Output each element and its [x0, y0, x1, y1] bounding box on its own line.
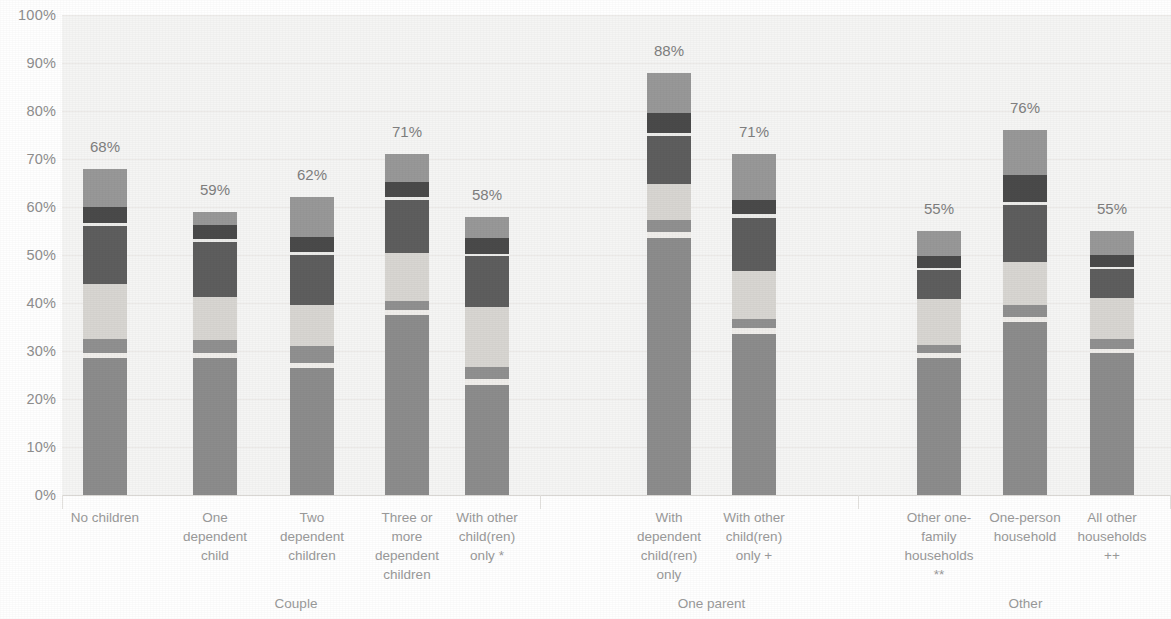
bar-segment: [193, 225, 237, 238]
bar-segment: [193, 242, 237, 297]
category-label-line: ++: [1062, 546, 1162, 565]
bar-value-label: 88%: [624, 43, 714, 58]
category-label-line: only *: [439, 546, 535, 565]
bar-stack[interactable]: [290, 197, 334, 495]
y-axis-tick-label: 50%: [4, 248, 56, 263]
category-label-line: Two: [260, 508, 364, 527]
bar-segment: [1090, 298, 1134, 339]
category-label-line: One: [163, 508, 267, 527]
bar-stack[interactable]: [1003, 130, 1047, 495]
bar-value-label: 62%: [267, 167, 357, 182]
category-label-line: only: [617, 565, 721, 584]
x-axis-line: [62, 495, 1171, 496]
gridline: [62, 63, 1171, 64]
y-axis-tick-label: 20%: [4, 392, 56, 407]
bar-segment: [1090, 269, 1134, 298]
category-label-line: All other: [1062, 508, 1162, 527]
bar-value-label: 71%: [709, 124, 799, 139]
bar-segment: [917, 231, 961, 255]
bar-segment: [83, 207, 127, 224]
category-label: All otherhouseholds++: [1062, 508, 1162, 565]
bar-segment: [647, 238, 691, 495]
category-label-line: households: [1062, 527, 1162, 546]
bar-segment: [1003, 262, 1047, 305]
bar-segment: [1090, 353, 1134, 495]
bar-stack[interactable]: [1090, 231, 1134, 495]
y-axis-tick-label: 40%: [4, 296, 56, 311]
bar-segment: [465, 307, 509, 367]
bar-segment: [732, 154, 776, 200]
y-axis-tick-label: 100%: [4, 8, 56, 23]
bar-segment: [465, 256, 509, 306]
bar-segment: [1090, 231, 1134, 255]
bar-segment: [290, 237, 334, 252]
bar-segment: [647, 220, 691, 232]
bar-stack[interactable]: [465, 217, 509, 495]
group-label: One parent: [612, 597, 812, 611]
category-label: Onedependentchild: [163, 508, 267, 565]
y-axis-tick-label: 70%: [4, 152, 56, 167]
bar-stack[interactable]: [917, 231, 961, 495]
bar-value-label: 58%: [442, 187, 532, 202]
y-axis: 0%10%20%30%40%50%60%70%80%90%100%: [0, 0, 56, 619]
bar-segment: [917, 345, 961, 354]
bar-segment: [465, 238, 509, 253]
bar-value-label: 59%: [170, 182, 260, 197]
bar-segment: [385, 154, 429, 181]
bar-segment: [1003, 205, 1047, 263]
bar-value-label: 55%: [1067, 201, 1157, 216]
bar-segment: [193, 212, 237, 225]
bar-segment: [385, 315, 429, 495]
category-label-line: children: [260, 546, 364, 565]
bar-segment: [732, 218, 776, 271]
bar-segment: [83, 284, 127, 339]
y-axis-tick-label: 60%: [4, 200, 56, 215]
category-label-line: children: [355, 565, 459, 584]
category-label: No children: [50, 508, 160, 527]
bar-segment: [647, 136, 691, 184]
bar-stack[interactable]: [647, 73, 691, 495]
category-label-line: child: [163, 546, 267, 565]
bar-segment: [732, 271, 776, 319]
bar-segment: [1003, 130, 1047, 175]
bar-segment: [290, 305, 334, 346]
y-axis-tick-label: 0%: [4, 488, 56, 503]
bar-segment: [83, 339, 127, 353]
bar-segment: [290, 197, 334, 236]
bar-segment: [917, 299, 961, 345]
category-label-line: households: [887, 546, 991, 565]
bar-stack[interactable]: [83, 169, 127, 495]
group-label: Other: [926, 597, 1126, 611]
bar-value-label: 55%: [894, 201, 984, 216]
y-axis-tick-label: 30%: [4, 344, 56, 359]
bar-segment: [290, 255, 334, 305]
bar-segment: [83, 169, 127, 207]
category-label: Twodependentchildren: [260, 508, 364, 565]
y-axis-tick-label: 90%: [4, 56, 56, 71]
bar-segment: [465, 217, 509, 239]
group-divider: [62, 495, 63, 509]
category-label: With otherchild(ren)only *: [439, 508, 535, 565]
bar-value-label: 76%: [980, 100, 1070, 115]
category-label-line: No children: [50, 508, 160, 527]
bar-segment: [83, 358, 127, 495]
category-label-line: dependent: [260, 527, 364, 546]
category-label-line: only +: [702, 546, 806, 565]
bar-segment: [732, 319, 776, 329]
bar-stack[interactable]: [385, 154, 429, 495]
category-label-line: **: [887, 565, 991, 584]
bar-stack[interactable]: [732, 154, 776, 495]
stacked-bar-chart: 0%10%20%30%40%50%60%70%80%90%100% 68%59%…: [0, 0, 1171, 619]
bar-stack[interactable]: [193, 212, 237, 495]
bar-value-label: 68%: [60, 139, 150, 154]
bar-segment: [385, 301, 429, 311]
bar-segment: [647, 113, 691, 132]
bar-segment: [647, 184, 691, 220]
bar-segment: [290, 346, 334, 363]
y-axis-tick-label: 80%: [4, 104, 56, 119]
category-label-line: dependent: [163, 527, 267, 546]
bar-segment: [290, 368, 334, 495]
bar-segment: [193, 340, 237, 353]
category-label-line: child(ren): [439, 527, 535, 546]
y-axis-tick-label: 10%: [4, 440, 56, 455]
